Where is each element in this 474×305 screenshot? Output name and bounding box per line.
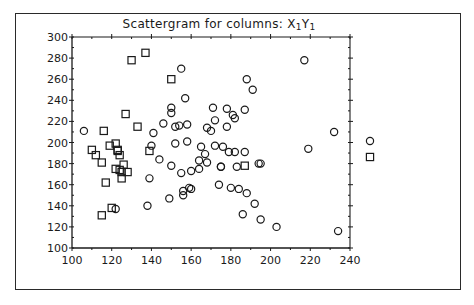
circle-point — [156, 156, 163, 163]
x-tick-label: 200 — [260, 254, 281, 267]
x-tick-label: 180 — [220, 254, 241, 267]
circle-point — [227, 184, 234, 191]
square-point — [128, 57, 135, 64]
square-point — [116, 152, 123, 159]
circle-point — [211, 142, 218, 149]
circle-point — [223, 105, 230, 112]
square-point — [98, 159, 105, 166]
legend-square-marker — [366, 153, 373, 160]
circle-point — [148, 142, 155, 149]
x-tick-label: 120 — [101, 254, 122, 267]
y-tick-label: 140 — [47, 200, 68, 213]
square-point — [100, 127, 107, 134]
circle-point — [146, 175, 153, 182]
circle-point — [178, 65, 185, 72]
circle-point — [223, 123, 230, 130]
square-point — [168, 76, 175, 83]
circle-point — [217, 163, 224, 170]
circle-point — [334, 228, 341, 235]
circle-point — [251, 200, 258, 207]
circle-point — [233, 163, 240, 170]
circle-point — [301, 57, 308, 64]
square-point — [241, 162, 248, 169]
circle-point — [201, 151, 208, 158]
y-tick-label: 240 — [47, 94, 68, 107]
circle-point — [80, 127, 87, 134]
y-tick-label: 260 — [47, 73, 68, 86]
circle-point — [331, 128, 338, 135]
circle-point — [195, 165, 202, 172]
x-tick-label: 140 — [141, 254, 162, 267]
square-point — [142, 49, 149, 56]
circle-point — [184, 121, 191, 128]
y-tick-label: 180 — [47, 158, 68, 171]
circle-point — [178, 169, 185, 176]
circle-point — [172, 140, 179, 147]
square-point — [102, 179, 109, 186]
circle-point — [160, 120, 167, 127]
scatter-plot: 1001201401601802002202401001201401601802… — [0, 0, 474, 305]
y-tick-label: 100 — [47, 242, 68, 255]
y-tick-label: 300 — [47, 31, 68, 44]
circle-point — [249, 86, 256, 93]
circle-point — [243, 76, 250, 83]
y-tick-label: 160 — [47, 179, 68, 192]
x-tick-label: 100 — [62, 254, 83, 267]
legend — [366, 137, 373, 160]
circle-point — [168, 109, 175, 116]
circle-point — [203, 159, 210, 166]
circle-point — [219, 143, 226, 150]
circle-point — [243, 190, 250, 197]
circle-point — [215, 181, 222, 188]
circle-point — [195, 157, 202, 164]
y-tick-label: 220 — [47, 115, 68, 128]
square-point — [122, 110, 129, 117]
circle-point — [235, 185, 242, 192]
circle-point — [257, 216, 264, 223]
circle-point — [209, 104, 216, 111]
circle-point — [166, 195, 173, 202]
y-tick-label: 120 — [47, 221, 68, 234]
circle-point — [168, 162, 175, 169]
circle-point — [197, 143, 204, 150]
circle-point — [188, 167, 195, 174]
y-tick-label: 280 — [47, 52, 68, 65]
x-tick-label: 240 — [340, 254, 361, 267]
circle-point — [273, 223, 280, 230]
square-point — [134, 123, 141, 130]
circle-point — [241, 106, 248, 113]
circle-point — [144, 202, 151, 209]
x-tick-label: 160 — [181, 254, 202, 267]
circle-point — [241, 148, 248, 155]
data-points — [80, 49, 341, 234]
circle-point — [150, 129, 157, 136]
legend-circle-marker — [366, 137, 373, 144]
circle-point — [239, 211, 246, 218]
circle-point — [305, 145, 312, 152]
square-point — [98, 212, 105, 219]
circle-point — [184, 138, 191, 145]
x-tick-label: 220 — [300, 254, 321, 267]
y-tick-label: 200 — [47, 137, 68, 150]
circle-point — [211, 117, 218, 124]
circle-point — [182, 95, 189, 102]
